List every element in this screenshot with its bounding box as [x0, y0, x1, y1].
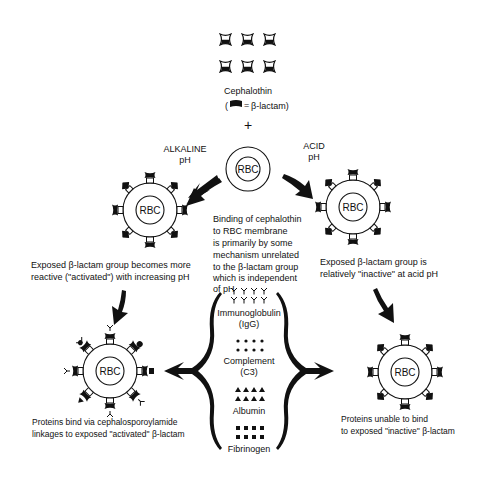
svg-text:ACID: ACID: [303, 141, 325, 151]
protein-name-complement: Complement: [223, 356, 275, 366]
svg-text:Proteins bind via cephalosp: Proteins bind via cephalosporoylamide: [32, 417, 178, 427]
acid-arrow-icon: [282, 174, 313, 199]
drug-name-label: Cephalothin: [224, 86, 272, 96]
center-rbc: RBC: [226, 147, 270, 191]
svg-text:pH: pH: [179, 155, 191, 165]
cephalothin-rbc-binding-diagram: Cephalothin ( = β-lactam) + ALKALINE pH …: [0, 0, 496, 478]
acid-ph-label: ACID pH: [303, 141, 325, 162]
svg-text:Proteins unable to bind: Proteins unable to bind: [341, 414, 428, 424]
protein-name-albumin: Albumin: [233, 406, 266, 416]
svg-text:Binding of cephalothin: Binding of cephalothin: [213, 214, 302, 224]
complement-symbols: [236, 339, 263, 351]
alkaline-rbc: RBC: [112, 172, 188, 248]
unbound-protein-caption: Proteins unable to bind to exposed "inac…: [341, 414, 455, 436]
plus-sign: +: [244, 117, 252, 133]
svg-text:RBC: RBC: [139, 205, 160, 216]
alkaline-ph-label: ALKALINE pH: [163, 144, 206, 165]
alkaline-down-arrow-icon: [112, 290, 128, 325]
right-brace-arrow-icon: [276, 292, 334, 450]
unbound-protein-rbc: RBC: [367, 334, 443, 410]
center-caption: Binding of cephalothin to RBC membrane i…: [212, 214, 302, 294]
svg-text:pH: pH: [308, 152, 320, 162]
svg-text:is primarily by some: is primarily by some: [213, 238, 293, 248]
svg-text:to exposed "inactive" β-lact: to exposed "inactive" β-lactam: [341, 426, 455, 436]
alkaline-arrow-icon: [186, 178, 222, 206]
svg-text:RBC: RBC: [342, 202, 363, 213]
cephalothin-molecules: [220, 34, 275, 72]
svg-text:which is independent: which is independent: [212, 273, 298, 283]
svg-text:ALKALINE: ALKALINE: [163, 144, 206, 154]
beta-lactam-glyph-icon: [230, 100, 242, 107]
acid-down-arrow-icon: [373, 288, 394, 323]
protein-abbr-igg: (IgG): [239, 319, 260, 329]
albumin-symbols: [235, 387, 265, 401]
beta-lactam-legend-text: β-lactam): [251, 101, 289, 111]
bound-protein-caption: Proteins bind via cephalosporoylamide li…: [32, 417, 185, 439]
acid-caption: Exposed β-lactam group is relatively "in…: [320, 257, 438, 279]
svg-text:Exposed β-lactam group is: Exposed β-lactam group is: [320, 257, 427, 267]
svg-text:RBC: RBC: [237, 164, 258, 175]
svg-text:relatively "inactive" at aci: relatively "inactive" at acid pH: [320, 269, 438, 279]
fibrinogen-symbols: [236, 426, 264, 439]
protein-abbr-complement: (C3): [240, 367, 258, 377]
protein-name-igg: Immunoglobulin: [217, 308, 281, 318]
protein-name-fibrinogen: Fibrinogen: [228, 444, 271, 454]
bound-protein-rbc: RBC: [64, 325, 154, 417]
acid-rbc: RBC: [315, 169, 391, 245]
svg-text:mechanism unrelated: mechanism unrelated: [213, 250, 299, 260]
svg-text:RBC: RBC: [394, 367, 415, 378]
protein-list: Immunoglobulin (IgG) Complement (C3) Alb…: [217, 288, 281, 454]
svg-text:reactive ("activated") with in: reactive ("activated") with increasing p…: [31, 272, 189, 282]
svg-text:linkages to exposed "activated: linkages to exposed "activated" β-lactam: [32, 429, 185, 439]
svg-text:to the β-lactam group: to the β-lactam group: [213, 262, 298, 272]
svg-text:(: (: [225, 101, 228, 111]
svg-text:of pH: of pH: [213, 284, 235, 294]
beta-lactam-legend: ( = β-lactam): [225, 100, 289, 111]
alkaline-caption: Exposed β-lactam group becomes more reac…: [31, 260, 191, 282]
svg-text:Exposed β-lactam group become: Exposed β-lactam group becomes more: [31, 260, 191, 270]
svg-text:=: =: [244, 100, 249, 110]
svg-text:to RBC membrane: to RBC membrane: [213, 226, 288, 236]
igg-symbols: [231, 288, 267, 304]
svg-text:RBC: RBC: [99, 366, 120, 377]
